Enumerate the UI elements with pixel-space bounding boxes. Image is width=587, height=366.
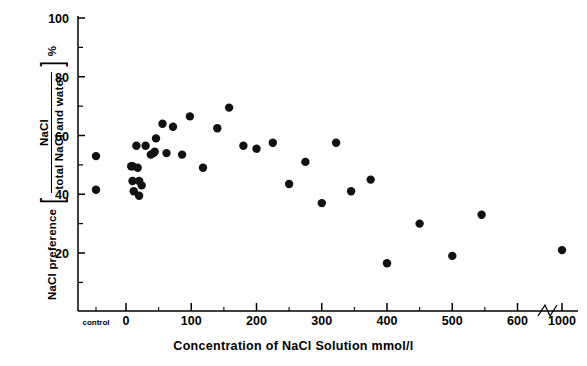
x-axis-label: Concentration of NaCl Solution mmol/l — [0, 339, 587, 353]
data-point — [162, 149, 170, 157]
data-point — [138, 181, 146, 189]
y-axis-label: NaCl preference [NaCltotal NaCl and wate… — [0, 0, 70, 320]
y-axis-label-main: NaCl preference — [46, 209, 58, 300]
x-axis-tick-label: 100 — [181, 314, 202, 328]
data-point — [477, 211, 485, 219]
data-point — [178, 150, 186, 158]
data-point — [135, 192, 143, 200]
scatter-points-group — [92, 103, 566, 267]
data-point — [448, 252, 456, 260]
data-point — [186, 112, 194, 120]
x-axis-tick-label: 400 — [377, 314, 398, 328]
y-axis-label-denominator: total NaCl and water — [51, 72, 65, 193]
data-point — [141, 142, 149, 150]
x-axis-tick-label: 500 — [442, 314, 463, 328]
data-point — [301, 158, 309, 166]
x-axis-tick-label: 0 — [123, 314, 130, 328]
data-point — [158, 120, 166, 128]
bracket-left-icon: [ — [40, 198, 64, 204]
y-axis-label-numerator: NaCl — [38, 116, 51, 149]
plot-canvas: 10080604020 control010020030040050060010… — [0, 0, 587, 366]
x-axis-tick-label: 300 — [311, 314, 332, 328]
bracket-right-icon: ] — [40, 61, 64, 67]
data-point — [213, 124, 221, 132]
data-point — [92, 186, 100, 194]
data-point — [332, 139, 340, 147]
x-axis-tick-label: 200 — [246, 314, 267, 328]
data-point — [367, 175, 375, 183]
data-point — [252, 145, 260, 153]
data-point — [347, 187, 355, 195]
x-axis-tick-label: 1000 — [548, 314, 576, 328]
x-axis-ticks — [96, 303, 562, 311]
data-point — [318, 199, 326, 207]
data-point — [383, 259, 391, 267]
x-axis-tick-label: control — [82, 318, 109, 327]
data-point — [225, 103, 233, 111]
x-axis-tick-labels: control01002003004005006001000 — [82, 314, 576, 328]
data-point — [199, 164, 207, 172]
data-point — [169, 123, 177, 131]
data-point — [415, 219, 423, 227]
y-axis-label-unit: % — [46, 46, 58, 56]
scatter-plot-figure: NaCl preference [NaCltotal NaCl and wate… — [0, 0, 587, 366]
data-point — [132, 142, 140, 150]
x-axis-tick-label: 600 — [507, 314, 528, 328]
data-point — [239, 142, 247, 150]
data-point — [134, 164, 142, 172]
y-axis-label-fraction: NaCltotal NaCl and water — [38, 69, 65, 196]
data-point — [285, 180, 293, 188]
data-point — [558, 246, 566, 254]
data-point — [92, 152, 100, 160]
data-point — [269, 139, 277, 147]
data-point — [152, 134, 160, 142]
data-point — [151, 148, 159, 156]
y-axis-ticks — [78, 18, 85, 282]
